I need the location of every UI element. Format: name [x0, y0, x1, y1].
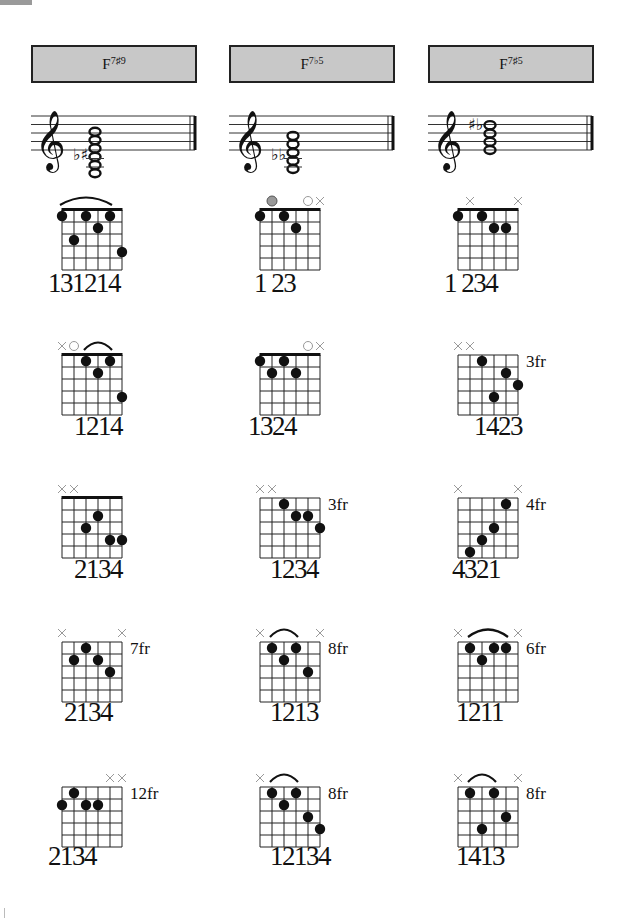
fingering-label: 1 23 [254, 268, 295, 299]
fret-position-label: 7fr [130, 639, 150, 658]
accidental-signs: ♭♯ [73, 145, 88, 164]
fingering-label: 1214 [74, 411, 122, 442]
chord-name: F7♯9 [102, 55, 125, 73]
page-edge-mark [4, 908, 5, 918]
finger-dot [291, 368, 301, 378]
open-string-o-icon [304, 197, 313, 206]
whole-note [90, 128, 101, 136]
barre-arc [84, 343, 112, 351]
fingering-label: 1211 [456, 697, 503, 728]
finger-dot [267, 368, 277, 378]
treble-clef-icon: 𝄞 [432, 110, 463, 173]
finger-dot [93, 655, 103, 665]
fingering-label: 1413 [456, 841, 504, 872]
open-string-o-icon [70, 342, 79, 351]
muted-string-x-icon [70, 485, 78, 493]
finger-dot [105, 535, 115, 545]
finger-dot [513, 380, 523, 390]
muted-string-x-icon [316, 342, 324, 350]
finger-dot [279, 356, 289, 366]
nut [260, 353, 321, 356]
corner-tab [0, 0, 32, 5]
finger-dot [81, 643, 91, 653]
finger-dot [267, 788, 277, 798]
finger-dot [279, 211, 289, 221]
fret-position-label: 4fr [526, 495, 546, 514]
finger-dot [489, 223, 499, 233]
fingering-label: 1423 [474, 411, 522, 442]
whole-note [288, 157, 299, 165]
fingering-label: 12134 [270, 841, 330, 872]
finger-dot [477, 535, 487, 545]
nut [458, 208, 519, 211]
fret-position-label: 8fr [526, 784, 546, 803]
finger-dot [291, 643, 301, 653]
nut [62, 496, 123, 499]
finger-dot [57, 211, 67, 221]
finger-dot [303, 812, 313, 822]
muted-string-x-icon [454, 342, 462, 350]
finger-dot [69, 788, 79, 798]
fingering-label: 4321 [452, 554, 500, 585]
muted-string-x-icon [58, 485, 66, 493]
finger-dot [105, 211, 115, 221]
finger-dot [105, 667, 115, 677]
muted-string-x-icon [58, 342, 66, 350]
fret-position-label: 8fr [328, 639, 348, 658]
chord-header-3: F7♯5 [428, 45, 594, 83]
muted-string-x-icon [256, 629, 264, 637]
muted-string-x-icon [514, 629, 522, 637]
finger-dot [279, 499, 289, 509]
finger-dot [501, 499, 511, 509]
whole-note [90, 136, 101, 144]
fingering-label: 2134 [64, 697, 112, 728]
muted-string-x-icon [514, 197, 522, 205]
finger-dot [501, 643, 511, 653]
fret-position-label: 6fr [526, 639, 546, 658]
barre-arc [270, 630, 298, 638]
finger-dot [501, 368, 511, 378]
muted-string-x-icon [118, 774, 126, 782]
muted-string-x-icon [466, 197, 474, 205]
finger-dot [453, 211, 463, 221]
barre-arc [468, 630, 508, 638]
finger-dot [93, 368, 103, 378]
finger-dot [315, 523, 325, 533]
fingering-label: 1324 [248, 411, 296, 442]
open-string-o-icon [304, 342, 313, 351]
whole-note [485, 121, 496, 129]
fingering-label: 1213 [270, 697, 318, 728]
finger-dot [291, 511, 301, 521]
fret-position-label: 3fr [328, 495, 348, 514]
finger-dot [303, 667, 313, 677]
finger-dot [465, 643, 475, 653]
muted-string-x-icon [256, 485, 264, 493]
finger-dot [489, 788, 499, 798]
muted-string-x-icon [454, 485, 462, 493]
finger-dot [489, 523, 499, 533]
finger-dot [477, 655, 487, 665]
chord-header-2: F7♭5 [229, 45, 395, 83]
finger-dot [489, 643, 499, 653]
finger-dot [69, 655, 79, 665]
fingering-label: 1234 [270, 554, 318, 585]
whole-note [288, 140, 299, 148]
finger-dot [501, 812, 511, 822]
finger-dot [477, 356, 487, 366]
finger-dot [105, 356, 115, 366]
treble-clef-icon: 𝄞 [233, 110, 264, 173]
finger-dot [303, 511, 313, 521]
whole-note [90, 144, 101, 152]
nut [260, 208, 321, 211]
fingering-label: 1 234 [444, 268, 497, 299]
chord-header-1: F7♯9 [31, 45, 197, 83]
fret-position-label: 8fr [328, 784, 348, 803]
muted-string-x-icon [514, 485, 522, 493]
finger-dot [477, 824, 487, 834]
barre-arc [270, 775, 298, 783]
finger-dot [81, 356, 91, 366]
finger-dot [57, 800, 67, 810]
finger-dot [255, 211, 265, 221]
finger-dot [465, 788, 475, 798]
muted-string-x-icon [106, 774, 114, 782]
